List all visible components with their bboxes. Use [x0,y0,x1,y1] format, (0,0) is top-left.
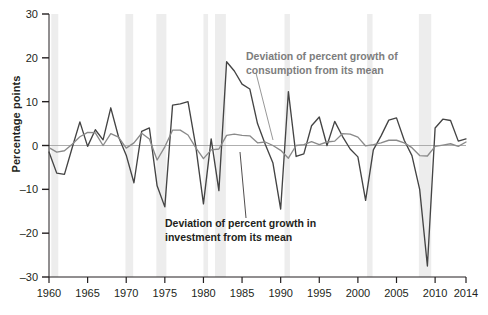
x-axis-tick-label: 1995 [307,287,331,299]
chart-container: Percentage points –30–20–100102030 19601… [0,0,488,315]
x-axis-tick-label: 1980 [191,287,215,299]
x-axis-tick-label: 1975 [153,287,177,299]
y-axis-tick-label: 30 [26,8,38,20]
x-axis-tick-label: 1985 [230,287,254,299]
y-axis-tick-label: 10 [26,96,38,108]
x-axis-tick-label: 1960 [37,287,61,299]
x-axis-tick-label: 1970 [114,287,138,299]
series-line [49,130,466,160]
annotations-layer: Deviation of percent growth ofconsumptio… [165,50,398,243]
y-axis: –30–20–100102030 [20,8,49,283]
annotation-leader-line [256,73,273,140]
x-axis-tick-label: 1965 [75,287,99,299]
x-axis-tick-label: 2014 [454,287,478,299]
annotation-leader-line [240,152,246,218]
y-axis-tick-label: –30 [20,271,38,283]
x-axis-tick-label: 1990 [268,287,292,299]
x-axis-tick-label: 2010 [423,287,447,299]
annotation-label: investment from its mean [165,231,292,243]
y-axis-tick-label: –20 [20,227,38,239]
y-axis-tick-label: –10 [20,183,38,195]
annotation-label: consumption from its mean [246,64,384,76]
x-axis-tick-label: 2000 [346,287,370,299]
line-chart: –30–20–100102030 19601965197019751980198… [0,0,488,315]
x-axis: 1960196519701975198019851990199520002005… [37,277,478,299]
y-axis-tick-label: 20 [26,52,38,64]
x-axis-tick-label: 2005 [384,287,408,299]
annotation-label: Deviation of percent growth in [165,217,316,229]
annotation-label: Deviation of percent growth of [246,50,398,62]
y-axis-tick-label: 0 [32,140,38,152]
